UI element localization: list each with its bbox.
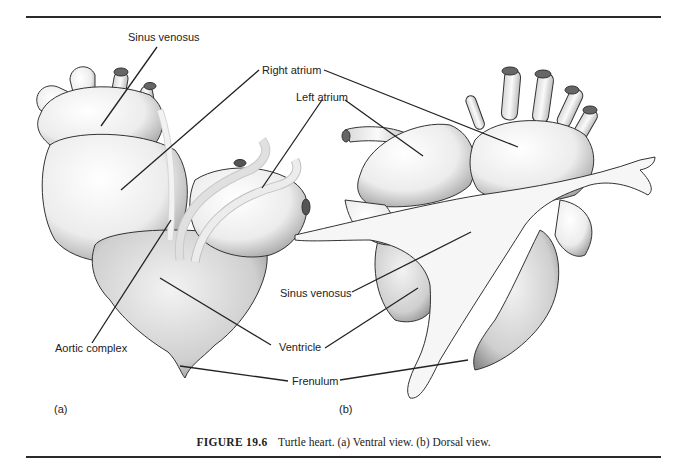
label-sinus-venosus-a: Sinus venosus [128,32,200,43]
panel-label-a: (a) [54,403,67,415]
turtle-heart-illustration [0,0,687,466]
label-right-atrium: Right atrium [262,65,321,76]
label-aortic-complex: Aortic complex [55,343,127,354]
label-sinus-venosus-b: Sinus venosus [280,288,352,299]
heart-dorsal-view [295,67,655,398]
label-ventricle: Ventricle [279,342,321,353]
heart-ventral-view [37,67,310,378]
panel-label-b: (b) [339,403,352,415]
vessel [501,69,521,120]
lower-lobe [555,200,592,256]
figure-caption: FIGURE 19.6 Turtle heart. (a) Ventral vi… [0,436,687,448]
bottom-rule [26,456,661,458]
leader-frenulum-b [340,360,468,380]
leader-frenulum-a [180,366,288,381]
label-frenulum: Frenulum [292,376,338,387]
label-left-atrium: Left atrium [296,92,348,103]
figure-caption-text: Turtle heart. (a) Ventral view. (b) Dors… [278,436,490,448]
vessel [532,72,555,124]
figure-number: FIGURE 19.6 [196,436,267,448]
vessel [464,94,485,130]
